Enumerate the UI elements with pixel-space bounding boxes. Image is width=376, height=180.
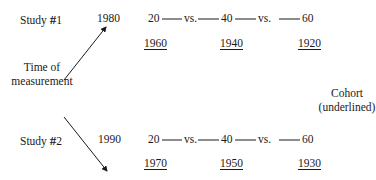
age-20: 20 bbox=[148, 13, 160, 25]
study-2-year: 1990 bbox=[98, 134, 121, 146]
cohort-label-line2: (underlined) bbox=[318, 102, 376, 114]
vs-2: vs. bbox=[258, 13, 271, 25]
cohort-1960: 1960 bbox=[144, 38, 167, 50]
study-number: 2 bbox=[56, 135, 62, 147]
study-2-label: Study #2 bbox=[20, 134, 62, 148]
vs-1: vs. bbox=[184, 134, 197, 146]
study-1-year: 1980 bbox=[97, 13, 120, 25]
age-40: 40 bbox=[221, 134, 233, 146]
age-40: 40 bbox=[221, 13, 233, 25]
age-20: 20 bbox=[148, 134, 160, 146]
cohort-1970: 1970 bbox=[144, 158, 167, 170]
study-word: Study bbox=[20, 14, 47, 26]
cohort-label-line1: Cohort bbox=[318, 88, 376, 100]
age-60: 60 bbox=[302, 13, 314, 25]
cohort-1940: 1940 bbox=[220, 38, 243, 50]
cohort-1930: 1930 bbox=[298, 158, 321, 170]
study-1-label: Study #1 bbox=[20, 13, 62, 27]
study-word: Study bbox=[20, 135, 47, 147]
vs-2: vs. bbox=[258, 134, 271, 146]
vs-1: vs. bbox=[184, 13, 197, 25]
time-label-line2: measurement bbox=[2, 76, 82, 88]
time-label-line1: Time of bbox=[6, 62, 78, 74]
study-number: 1 bbox=[56, 14, 62, 26]
cohort-1920: 1920 bbox=[298, 38, 321, 50]
age-60: 60 bbox=[302, 134, 314, 146]
cohort-1950: 1950 bbox=[220, 158, 243, 170]
